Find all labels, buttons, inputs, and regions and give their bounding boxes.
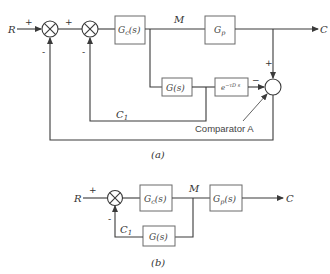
minus-sign: − [252, 75, 260, 85]
output-c-label: C [320, 24, 328, 35]
process-block: Gp(s) [210, 185, 242, 211]
signal-line [175, 198, 193, 237]
caption-a: (a) [151, 149, 165, 160]
plus-sign: + [65, 17, 73, 27]
input-r-label: R [73, 193, 82, 204]
plus-sign: + [25, 17, 33, 27]
comparator-label: Comparator A [195, 123, 254, 134]
diagram-b: R + - Gc(s) M Gp(s) C G(s) C1 (b) [73, 183, 294, 268]
controller-block: Gc(s) [140, 185, 172, 211]
signal-m-label: M [188, 183, 200, 194]
input-r-label: R [7, 24, 16, 35]
feedback-block: G(s) [143, 226, 175, 246]
comparator-pointer [243, 94, 267, 121]
signal-c1-label: C1 [116, 109, 128, 122]
summing-junction-1 [42, 21, 58, 37]
svg-text:G(s): G(s) [166, 83, 185, 93]
model-block: G(s) [162, 78, 192, 96]
minus-sign: - [42, 47, 45, 57]
minus-sign: - [82, 47, 85, 57]
signal-line [150, 29, 162, 87]
minus-sign: - [108, 214, 111, 224]
signal-m-label: M [173, 14, 185, 25]
comparator-a [265, 79, 281, 95]
summing-junction [108, 191, 123, 206]
process-block: Gp [205, 16, 235, 44]
output-c-label: C [286, 193, 294, 204]
block-diagram-canvas: R + - + - Gc(s) M [0, 0, 330, 274]
summing-junction-2 [82, 21, 98, 37]
diagram-a: R + - + - Gc(s) M [7, 14, 328, 160]
delay-block: e−τD s [215, 78, 248, 96]
signal-c1-label: C1 [120, 224, 132, 237]
caption-b: (b) [151, 257, 165, 268]
plus-sign: + [265, 58, 273, 68]
controller-block: Gc(s) [115, 16, 145, 44]
plus-sign: + [89, 185, 97, 195]
svg-text:G(s): G(s) [149, 232, 168, 242]
